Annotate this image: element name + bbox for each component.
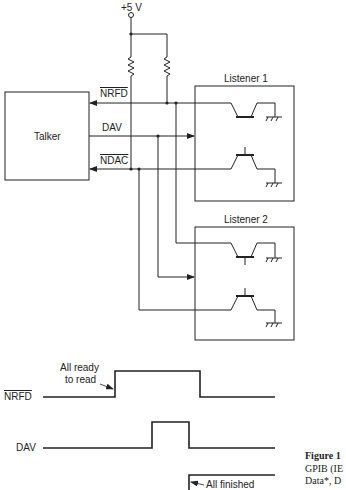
pullup-resistor-nrfd-icon bbox=[128, 57, 134, 76]
nrfd-annotation-line1: All ready bbox=[60, 363, 99, 373]
supply-label: +5 V bbox=[121, 3, 142, 13]
dav-signal-label: DAV bbox=[102, 123, 122, 133]
listener-2-ndac-transistor-icon bbox=[231, 288, 282, 327]
talker-label: Talker bbox=[34, 132, 61, 142]
caption-line3: Data*, D bbox=[305, 475, 343, 488]
dav-waveform bbox=[43, 422, 275, 448]
listener-1-ndac-transistor-icon bbox=[231, 147, 282, 187]
gpib-handshake-diagram bbox=[0, 0, 346, 490]
ndac-signal-label: NDAC bbox=[100, 156, 128, 166]
pullup-resistor-ndac-icon bbox=[164, 57, 170, 76]
listener-2-nrfd-transistor-icon bbox=[231, 243, 282, 265]
supply-terminal-icon bbox=[129, 13, 134, 18]
listener-1-nrfd-transistor-icon bbox=[231, 103, 282, 121]
timing-nrfd-label: NRFD bbox=[4, 392, 32, 402]
caption-line2: GPIB (IE bbox=[305, 463, 343, 476]
figure-caption: Figure 1 GPIB (IE Data*, D bbox=[305, 450, 343, 488]
timing-dav-label: DAV bbox=[16, 443, 36, 453]
nrfd-signal-label: NRFD bbox=[100, 89, 128, 99]
ndac-annotation: All finished bbox=[206, 480, 254, 490]
caption-title: Figure 1 bbox=[305, 450, 341, 461]
listener-1-label: Listener 1 bbox=[224, 74, 268, 84]
listener-2-label: Listener 2 bbox=[224, 215, 268, 225]
nrfd-annotation-line2: to read bbox=[65, 375, 96, 385]
